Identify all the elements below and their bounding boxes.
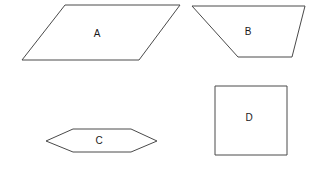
shapes-svg <box>0 0 318 169</box>
shape-a-parallelogram[interactable] <box>22 5 180 60</box>
shape-label-c: C <box>95 136 102 146</box>
figure-canvas: A B C D <box>0 0 318 169</box>
shape-label-a: A <box>94 29 101 39</box>
shape-label-d: D <box>245 113 252 123</box>
shape-label-b: B <box>245 27 252 37</box>
